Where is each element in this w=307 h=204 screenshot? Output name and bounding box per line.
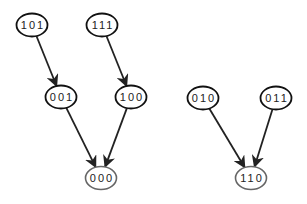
node-label: 111: [92, 19, 115, 31]
node-001: 001: [46, 86, 77, 109]
state-transition-diagram: 101111001100010011000110: [0, 0, 307, 204]
edge-arrow-101-to-001: [36, 36, 56, 86]
edge-arrow-111-to-100: [106, 36, 126, 86]
node-000: 000: [86, 167, 117, 190]
node-111: 111: [87, 14, 118, 37]
node-110: 110: [236, 167, 267, 190]
edge-arrow-100-to-000: [105, 108, 127, 167]
edge-arrow-001-to-000: [66, 108, 95, 167]
node-010: 010: [188, 87, 219, 110]
edge-arrow-011-to-110: [255, 109, 273, 167]
node-label: 110: [240, 172, 264, 184]
node-label: 011: [265, 92, 289, 104]
node-label: 010: [192, 92, 216, 104]
node-100: 100: [116, 86, 147, 109]
nodes: 101111001100010011000110: [17, 14, 292, 190]
node-011: 011: [261, 87, 292, 110]
node-label: 000: [90, 172, 114, 184]
edge-arrow-010-to-110: [209, 109, 244, 168]
node-101: 101: [17, 14, 48, 37]
node-label: 001: [50, 91, 74, 103]
node-label: 100: [120, 91, 144, 103]
node-label: 101: [21, 19, 45, 31]
